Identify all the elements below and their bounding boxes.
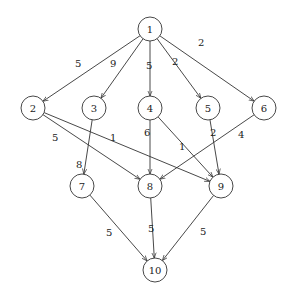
edge-weight-label: 5 [146, 60, 152, 71]
edge-6-8 [160, 115, 254, 179]
node-label: 3 [91, 103, 97, 114]
edge-weight-label: 5 [52, 132, 58, 143]
edge-weight-label: 5 [200, 226, 206, 237]
edge-weight-label: 4 [238, 129, 244, 140]
node-label: 10 [149, 265, 162, 276]
node-label: 4 [147, 103, 153, 114]
edge-weight-label: 1 [179, 141, 185, 152]
edge-weight-label: 8 [76, 159, 82, 170]
graph-diagram: 595225186124555 12345678910 [0, 0, 293, 293]
node-label: 8 [147, 181, 153, 192]
edge-weight-label: 5 [75, 58, 81, 69]
edge-weight-label: 5 [148, 223, 154, 234]
node-label: 6 [261, 103, 267, 114]
edge-weight-label: 2 [198, 37, 204, 48]
graph-canvas: 595225186124555 12345678910 [0, 0, 293, 293]
edge-1-6 [160, 36, 254, 101]
edge-weight-label: 9 [110, 58, 116, 69]
node-label: 5 [205, 103, 211, 114]
node-label: 9 [218, 181, 224, 192]
node-label: 2 [30, 103, 36, 114]
edge-weight-label: 1 [110, 132, 116, 143]
edge-weight-label: 2 [210, 127, 216, 138]
node-label: 7 [79, 181, 85, 192]
edge-weight-label: 2 [172, 56, 178, 67]
edge-1-5 [157, 39, 201, 99]
edge-4-9 [158, 117, 213, 177]
edge-weight-label: 6 [144, 127, 150, 138]
edge-7-10 [90, 195, 147, 261]
edge-weight-label: 5 [106, 227, 112, 238]
edge-1-2 [43, 36, 140, 102]
node-label: 1 [147, 24, 153, 35]
